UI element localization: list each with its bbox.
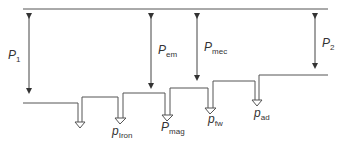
label-pem: Pem [158,43,177,59]
label-p1: P1 [8,48,20,64]
label-pmag: Pmag [161,120,185,136]
stepped-power-line [23,75,328,122]
label-pfw: pfw [208,112,223,128]
label-p2: P2 [322,36,334,52]
label-piron: pIron [112,124,132,140]
loss-arrow-1-icon [75,122,85,128]
label-pad: pad [254,106,270,122]
label-pmec: Pmec [204,40,227,56]
